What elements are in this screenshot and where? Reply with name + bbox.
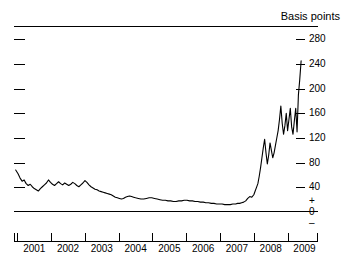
y-tick-mark — [296, 89, 305, 90]
y-tick-label: 80 — [309, 157, 320, 169]
x-axis-label-2004: 2004 — [124, 243, 146, 255]
y-tick-left-240 — [14, 64, 25, 65]
x-tick-mark — [17, 233, 18, 242]
x-axis-label-2001: 2001 — [23, 243, 45, 255]
y-tick-mark — [296, 187, 305, 188]
x-axis-label-2002: 2002 — [57, 243, 79, 255]
y-tick-label: 200 — [309, 83, 326, 95]
x-axis-label-2007: 2007 — [226, 243, 248, 255]
x-tick-mark — [186, 233, 187, 242]
x-axis-label-2008: 2008 — [260, 243, 282, 255]
x-axis-labels: 200120022003200420052006200720082009 — [14, 243, 318, 257]
y-tick-left-160 — [14, 113, 25, 114]
y-tick-label: 280 — [309, 33, 326, 45]
y-tick-left-40 — [14, 187, 25, 188]
y-tick-mark — [296, 113, 305, 114]
y-tick-label: 40 — [309, 181, 320, 193]
y-tick-mark — [296, 64, 305, 65]
negative-sign: – — [309, 218, 315, 228]
x-axis-label-2003: 2003 — [91, 243, 113, 255]
x-axis-label-2009: 2009 — [293, 243, 315, 255]
y-tick-left-120 — [14, 138, 25, 139]
y-tick-mark — [296, 138, 305, 139]
y-tick-mark — [296, 163, 305, 164]
zero-label: 0 — [309, 207, 315, 217]
x-tick-mark — [152, 233, 153, 242]
y-axis-left-ticks — [14, 0, 32, 260]
x-tick-mark — [51, 233, 52, 242]
x-tick-mark — [14, 233, 15, 242]
zero-baseline — [14, 211, 318, 212]
x-axis-label-2006: 2006 — [192, 243, 214, 255]
y-axis-right-labels: 2802402001601208040 — [296, 0, 348, 260]
chart-container: Basis points 2802402001601208040 + 0 – 2… — [0, 0, 348, 260]
x-tick-mark — [85, 233, 86, 242]
x-tick-mark — [288, 233, 289, 242]
x-tick-mark — [317, 233, 318, 242]
plot-area — [14, 27, 318, 212]
y-tick-left-280 — [14, 39, 25, 40]
y-tick-mark — [296, 39, 305, 40]
x-axis-label-2005: 2005 — [158, 243, 180, 255]
positive-sign: + — [309, 196, 315, 206]
y-tick-label: 120 — [309, 132, 326, 144]
x-axis-line — [14, 241, 318, 242]
x-tick-mark — [119, 233, 120, 242]
y-tick-left-200 — [14, 89, 25, 90]
y-tick-label: 240 — [309, 58, 326, 70]
x-tick-mark — [220, 233, 221, 242]
series-line — [14, 27, 318, 212]
x-axis — [14, 232, 318, 242]
x-tick-mark — [254, 233, 255, 242]
y-tick-left-80 — [14, 163, 25, 164]
y-tick-label: 160 — [309, 107, 326, 119]
